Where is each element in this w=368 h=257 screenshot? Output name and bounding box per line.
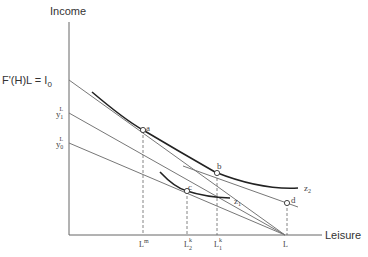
point-d-label: d [291,195,296,205]
point-d-marker [284,200,289,205]
leisure-income-diagram: a b c d z1 z2 Income Leisure F'(H)L = I0… [0,0,368,257]
tick-lm: Lm [139,238,149,249]
point-a-marker [140,127,145,132]
x-axis-title: Leisure [325,229,361,241]
indifference-curve-z2 [160,172,230,198]
curve-z1-label: z1 [234,196,241,207]
point-c-label: c [188,182,192,192]
y1-intercept-label: yL1 [56,106,64,120]
point-b-marker [214,170,219,175]
indifference-curve-z3 [92,92,298,188]
y0-intercept-label: yL0 [56,136,64,150]
point-a-label: a [146,123,150,133]
budget-line-y1 [69,113,285,235]
i0-intercept-label: F'(H)L = I0 [2,74,52,89]
point-b-label: b [217,161,222,171]
tick-l: L [283,240,288,249]
tick-l2k: Lk2 [184,237,192,251]
budget-line-i0 [69,80,285,235]
budget-line-y0 [69,143,285,235]
y-axis-title: Income [50,5,86,17]
curve-z2-label: z2 [304,183,311,194]
tick-l1k: Lk1 [214,237,222,251]
